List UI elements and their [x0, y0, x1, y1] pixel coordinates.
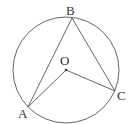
label-b: B: [66, 4, 75, 17]
geometry-figure: B O A C: [0, 0, 132, 124]
label-c: C: [117, 89, 126, 102]
center-point: [65, 69, 68, 72]
segment-oc: [66, 70, 115, 91]
label-a: A: [18, 107, 27, 120]
label-o: O: [60, 54, 69, 67]
segment-ao: [28, 70, 66, 107]
segment-bc: [72, 18, 115, 91]
